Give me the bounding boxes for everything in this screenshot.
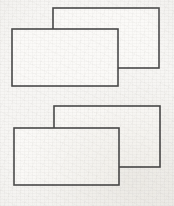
- top-front-rectangle-fill: [12, 29, 118, 86]
- rectangles-drawing: [0, 0, 174, 206]
- top-pair-group: [12, 8, 159, 86]
- bottom-pair-group: [14, 106, 160, 185]
- figure-canvas: [0, 0, 174, 206]
- bottom-front-rectangle-fill: [14, 128, 119, 185]
